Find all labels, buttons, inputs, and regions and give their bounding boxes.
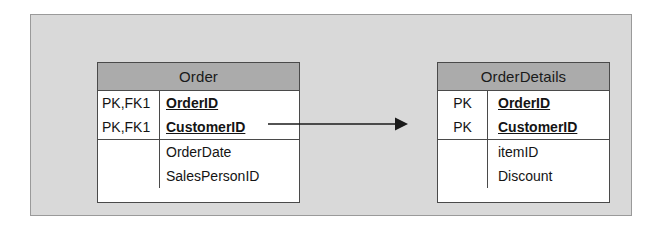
attribute-row[interactable]: PK CustomerID — [438, 115, 609, 139]
attribute-name: CustomerID — [487, 115, 609, 139]
key-designator: PK,FK1 — [98, 115, 159, 139]
entity-orderdetails[interactable]: OrderDetails PK OrderID PK CustomerID — [437, 62, 610, 203]
entity-order[interactable]: Order PK,FK1 OrderID PK,FK1 CustomerID — [97, 62, 300, 203]
entity-orderdetails-key-section: PK OrderID PK CustomerID — [438, 91, 609, 140]
diagram-canvas: Order PK,FK1 OrderID PK,FK1 CustomerID — [0, 0, 660, 231]
attribute-name: SalesPersonID — [159, 164, 299, 188]
attribute-name: OrderDate — [159, 140, 299, 164]
entity-orderdetails-attribute-section: itemID Discount — [438, 140, 609, 188]
entity-orderdetails-body: PK OrderID PK CustomerID itemID — [438, 91, 609, 188]
attribute-name: itemID — [487, 140, 609, 164]
attribute-name: OrderID — [159, 91, 299, 115]
entity-order-key-section: PK,FK1 OrderID PK,FK1 CustomerID — [98, 91, 299, 140]
key-designator — [98, 164, 159, 188]
key-designator — [98, 140, 159, 164]
entity-order-attribute-section: OrderDate SalesPersonID — [98, 140, 299, 188]
attribute-row[interactable]: OrderDate — [98, 140, 299, 164]
entity-orderdetails-title: OrderDetails — [438, 63, 609, 91]
attribute-row[interactable]: SalesPersonID — [98, 164, 299, 188]
attribute-row[interactable]: PK OrderID — [438, 91, 609, 115]
attribute-name: OrderID — [487, 91, 609, 115]
attribute-row[interactable]: PK,FK1 CustomerID — [98, 115, 299, 139]
key-designator: PK,FK1 — [98, 91, 159, 115]
attribute-row[interactable]: PK,FK1 OrderID — [98, 91, 299, 115]
attribute-name: CustomerID — [159, 115, 299, 139]
key-designator — [438, 164, 487, 188]
entity-order-title: Order — [98, 63, 299, 91]
attribute-row[interactable]: itemID — [438, 140, 609, 164]
key-designator: PK — [438, 91, 487, 115]
key-designator: PK — [438, 115, 487, 139]
attribute-name: Discount — [487, 164, 609, 188]
diagram-frame: Order PK,FK1 OrderID PK,FK1 CustomerID — [30, 14, 632, 216]
key-designator — [438, 140, 487, 164]
attribute-row[interactable]: Discount — [438, 164, 609, 188]
entity-order-body: PK,FK1 OrderID PK,FK1 CustomerID OrderDa… — [98, 91, 299, 188]
